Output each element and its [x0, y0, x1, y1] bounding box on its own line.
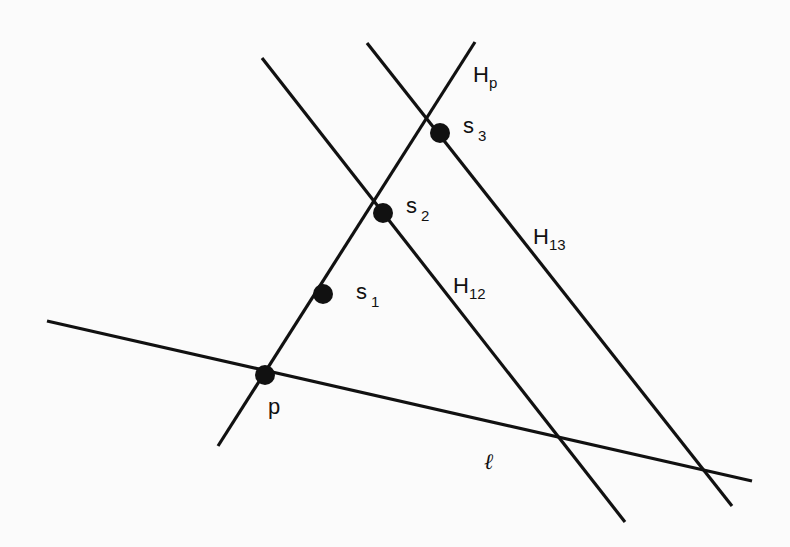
- label-s1-main: s: [356, 279, 367, 304]
- point-s2: [373, 203, 393, 223]
- label-h13-sub: 13: [549, 236, 566, 253]
- label-s3: s3: [463, 113, 486, 144]
- line-l: [47, 321, 752, 481]
- label-h13: H13: [533, 224, 566, 253]
- label-hp: Hp: [473, 62, 497, 91]
- label-s2-sub: 2: [421, 207, 429, 224]
- label-h12: H12: [453, 273, 486, 302]
- label-s3-main: s: [463, 113, 474, 138]
- point-p: [255, 365, 275, 385]
- label-s1-sub: 1: [371, 293, 379, 310]
- label-h12-main: H: [453, 273, 469, 298]
- label-s2-main: s: [406, 193, 417, 218]
- label-s1: s1: [356, 279, 379, 310]
- line-hp: [218, 42, 475, 446]
- label-s2: s2: [406, 193, 429, 224]
- geometry-diagram: Hp H13 H12 ℓ s3 s2 s1 p: [0, 0, 790, 547]
- label-s3-sub: 3: [478, 127, 486, 144]
- label-l: ℓ: [484, 449, 494, 474]
- label-hp-main: H: [473, 62, 489, 87]
- label-h12-sub: 12: [469, 285, 486, 302]
- point-s1: [313, 284, 333, 304]
- point-s3: [430, 123, 450, 143]
- label-hp-sub: p: [489, 74, 497, 91]
- label-p: p: [268, 394, 280, 419]
- label-h13-main: H: [533, 224, 549, 249]
